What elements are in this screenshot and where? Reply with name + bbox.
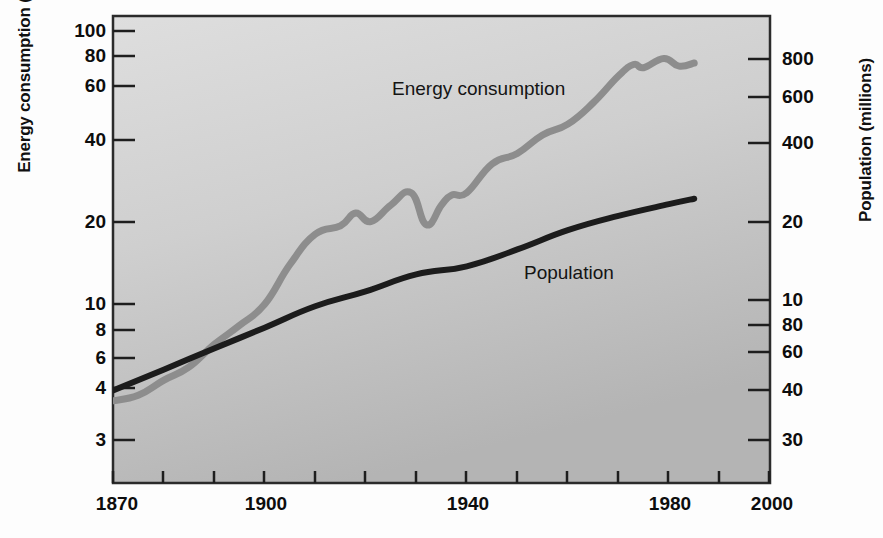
- left-axis-title: Energy consumption (quadrillion BTUs): [10, 0, 40, 264]
- right-axis-title: Population (millions): [851, 0, 881, 350]
- annotation-population: Population: [524, 262, 614, 284]
- x-tick-1940: 1940: [447, 494, 489, 513]
- chart-figure: 100 80 60 40 20 10 8 6 4 3 800 600 400 2…: [0, 0, 883, 538]
- x-tick-1980: 1980: [649, 494, 691, 513]
- annotation-energy-consumption: Energy consumption: [392, 78, 565, 100]
- x-tick-2000: 2000: [751, 494, 793, 513]
- x-tick-1900: 1900: [245, 494, 287, 513]
- x-tick-1870: 1870: [96, 494, 138, 513]
